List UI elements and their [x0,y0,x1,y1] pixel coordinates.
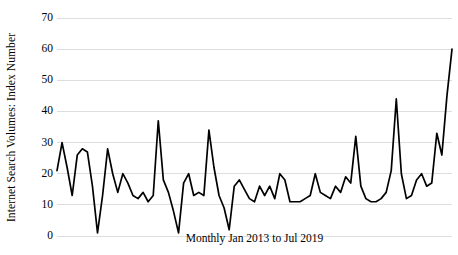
x-axis-title: Monthly Jan 2013 to Jul 2019 [57,232,452,244]
y-axis-tick-label: 30 [27,137,53,149]
y-axis-tick-label: 70 [27,12,53,24]
y-axis-tick-label: 10 [27,199,53,211]
y-axis-title: Internet Search Volumes: Index Number [0,0,22,255]
y-axis-tick-label: 20 [27,168,53,180]
y-axis-tick-label: 40 [27,105,53,117]
y-axis-tick-label: 0 [27,230,53,242]
plot-area [57,18,452,236]
series-path [57,49,452,233]
y-axis-tick-label: 60 [27,43,53,55]
y-axis-tick-label: 50 [27,74,53,86]
y-axis-tick-labels: 706050403020100 [22,18,53,236]
line-chart-figure: Internet Search Volumes: Index Number 70… [0,0,458,255]
data-series-line [57,18,452,236]
